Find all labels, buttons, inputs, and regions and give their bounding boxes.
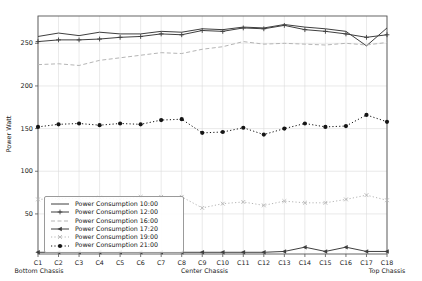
series-power-consumption-21:00 bbox=[36, 113, 389, 137]
x-tick-label: C14 bbox=[299, 259, 311, 266]
series-power-consumption-12:00 bbox=[36, 23, 390, 44]
x-tick-label: C7 bbox=[157, 259, 165, 266]
y-tick-label: 50 bbox=[25, 210, 33, 218]
x-tick-label: C10 bbox=[217, 259, 229, 266]
series-power-consumption-10:00 bbox=[38, 25, 387, 46]
y-axis-label: Power Watt bbox=[5, 116, 13, 153]
legend-item-label: Power Consumption 21:00 bbox=[75, 242, 158, 248]
legend-line-sample bbox=[50, 225, 70, 233]
x-tick-label: C5 bbox=[116, 259, 124, 266]
x-group-label: Center Chassis bbox=[181, 267, 228, 274]
x-tick-label: C15 bbox=[319, 259, 331, 266]
y-tick-label: 100 bbox=[21, 167, 33, 175]
x-tick-label: C4 bbox=[95, 259, 103, 266]
legend-line-sample bbox=[50, 217, 70, 225]
chart-legend: Power Consumption 10:00Power Consumption… bbox=[44, 196, 184, 253]
legend-item: Power Consumption 12:00 bbox=[50, 208, 178, 216]
x-tick-label: C6 bbox=[136, 259, 144, 266]
legend-item-label: Power Consumption 17:20 bbox=[75, 226, 158, 232]
legend-item: Power Consumption 19:00 bbox=[50, 233, 178, 241]
legend-item-label: Power Consumption 19:00 bbox=[75, 234, 158, 240]
x-tick-label: C3 bbox=[75, 259, 83, 266]
legend-line-sample bbox=[50, 208, 70, 216]
power-consumption-chart: 50100150200250C1C2C3C4C5C6C7C8C9C10C11C1… bbox=[0, 0, 422, 281]
legend-line-sample bbox=[50, 200, 70, 208]
x-tick-label: C13 bbox=[278, 259, 290, 266]
legend-item: Power Consumption 21:00 bbox=[50, 241, 178, 249]
x-tick-label: C11 bbox=[237, 259, 249, 266]
legend-item-label: Power Consumption 16:00 bbox=[75, 218, 158, 224]
legend-item-label: Power Consumption 10:00 bbox=[75, 201, 158, 207]
x-group-label: Top Chassis bbox=[368, 267, 405, 275]
x-tick-label: C17 bbox=[360, 259, 372, 266]
y-tick-label: 150 bbox=[21, 125, 33, 133]
legend-item-label: Power Consumption 12:00 bbox=[75, 209, 158, 215]
x-tick-label: C16 bbox=[340, 259, 352, 266]
y-tick-label: 250 bbox=[21, 39, 33, 47]
legend-item: Power Consumption 17:20 bbox=[50, 225, 178, 233]
legend-line-sample bbox=[50, 242, 70, 250]
series-power-consumption-16:00 bbox=[38, 42, 387, 66]
x-tick-label: C1 bbox=[34, 259, 42, 266]
y-tick-label: 200 bbox=[21, 82, 33, 90]
legend-item: Power Consumption 16:00 bbox=[50, 217, 178, 225]
legend-item: Power Consumption 10:00 bbox=[50, 200, 178, 208]
x-tick-label: C9 bbox=[198, 259, 206, 266]
x-tick-label: C8 bbox=[178, 259, 186, 266]
legend-line-sample bbox=[50, 233, 70, 241]
x-tick-label: C12 bbox=[258, 259, 270, 266]
x-tick-label: C2 bbox=[54, 259, 62, 266]
x-tick-label: C18 bbox=[381, 259, 393, 266]
x-group-label: Bottom Chassis bbox=[15, 267, 64, 274]
